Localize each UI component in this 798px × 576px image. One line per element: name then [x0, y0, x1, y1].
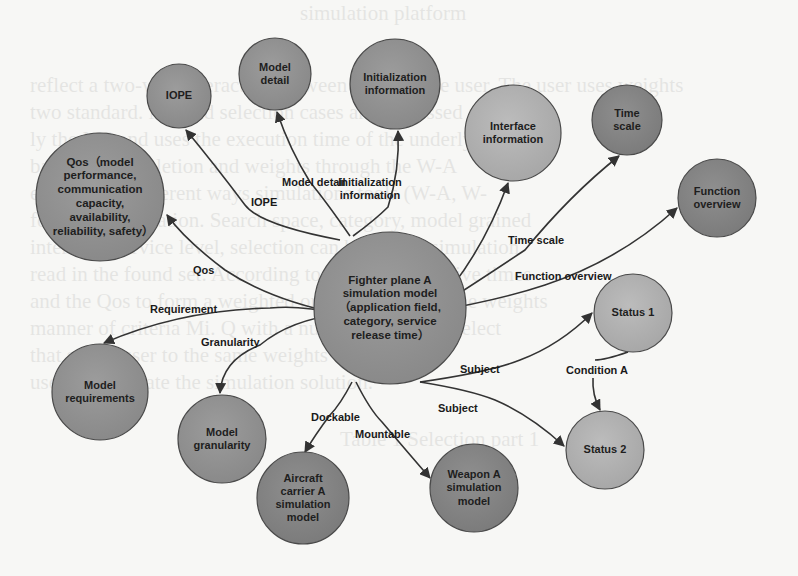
node-label-weapon-a: Weapon A simulation model [439, 448, 509, 527]
node-label-qos: Qos（model performance, communication cap… [49, 139, 151, 254]
node-label-model-granularity: Model granularity [187, 399, 257, 478]
node-label-init-info: Initialization information [359, 44, 431, 125]
edge-label-subject-2: Subject [438, 402, 478, 415]
node-label-status-2: Status 2 [574, 415, 636, 485]
edge-label-granularity: Granularity [201, 336, 260, 349]
edge-label-mountable: Mountable [355, 428, 410, 441]
node-label-function-overview: Function overview [686, 163, 748, 233]
edge-label-subject-1: Subject [460, 363, 500, 376]
node-label-model-detail: Model detail [246, 42, 304, 107]
node-label-aircraft-carrier: Aircraft carrier A simulation model [266, 457, 340, 540]
node-label-center: Fighter plane A simulation model（applica… [329, 240, 451, 377]
node-label-status-1: Status 1 [602, 278, 664, 348]
edge-label-time-scale: Time scale [508, 234, 564, 247]
edge-condition-a [593, 352, 628, 410]
edge-label-init-info: Initialization information [330, 176, 410, 202]
edge-label-qos: Qos [193, 264, 214, 277]
node-label-interface-info: Interface information [475, 90, 552, 176]
edge-label-iope: IOPE [251, 196, 277, 209]
edge-label-requirement: Requirement [150, 303, 217, 316]
edge-model-detail [277, 112, 350, 236]
edge-label-condition-a: Condition A [566, 364, 628, 377]
node-label-iope: IOPE [153, 67, 204, 125]
edge-label-dockable: Dockable [311, 411, 360, 424]
node-label-time-scale: Time scale [599, 89, 655, 152]
node-label-model-requirements: Model requirements [62, 349, 139, 435]
edge-label-function-overview: Function overview [515, 270, 612, 283]
